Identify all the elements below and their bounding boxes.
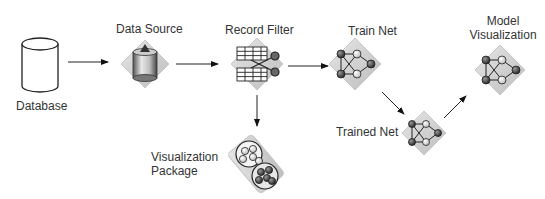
visualization-package-label-line1: Visualization	[151, 150, 218, 164]
trained-net-label: Trained Net	[336, 125, 398, 139]
visualization-package-label: Visualization Package	[151, 150, 218, 178]
edge-train-net-to-trained-net	[382, 92, 404, 114]
database-cylinder-icon	[22, 38, 58, 92]
model-visualization-label: Model Visualization	[463, 14, 543, 42]
trained-net-icon	[402, 111, 446, 155]
data-source-label: Data Source	[116, 22, 183, 36]
data-source-icon	[121, 40, 169, 88]
visualization-package-label-line2: Package	[151, 164, 218, 178]
train-net-label: Train Net	[348, 24, 397, 38]
edge-trained-net-to-model-visualization	[444, 96, 466, 118]
model-visualization-label-line2: Visualization	[463, 28, 543, 42]
model-visualization-icon	[475, 45, 525, 95]
train-net-icon	[329, 38, 381, 90]
database-label: Database	[16, 99, 67, 113]
model-visualization-label-line1: Model	[463, 14, 543, 28]
record-filter-label: Record Filter	[225, 23, 294, 37]
visualization-package-icon	[227, 134, 285, 194]
record-filter-icon	[231, 38, 283, 90]
